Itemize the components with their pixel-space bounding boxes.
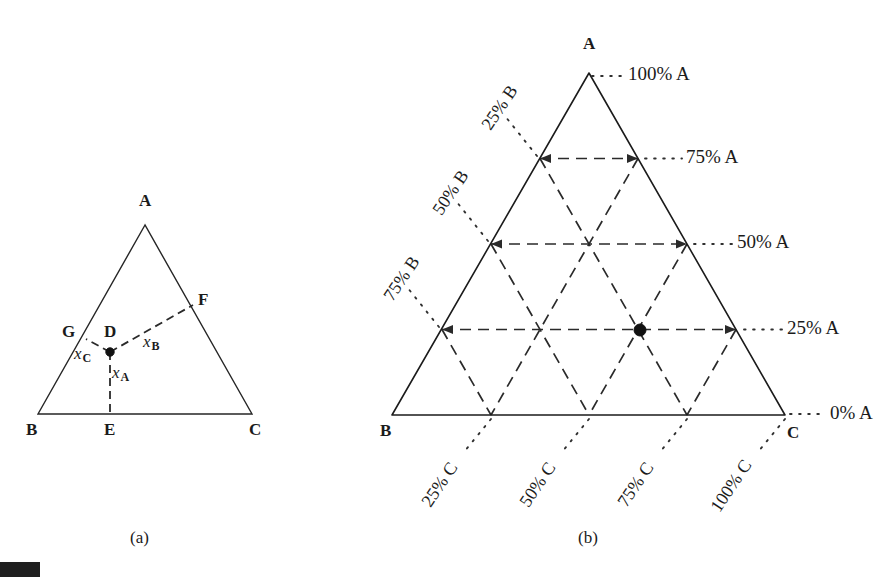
panel-a-vertex-label-c: C bbox=[249, 421, 261, 438]
panel-a-point-label-d: D bbox=[104, 323, 116, 340]
panel-b-label-a-100: 100% A bbox=[628, 64, 690, 83]
panel-b-gridline-b25 bbox=[540, 159, 687, 416]
panel-b-composition-point-marker bbox=[634, 324, 646, 336]
panel-a-xa-symbol: x bbox=[112, 363, 120, 382]
panel-a-caption: (a) bbox=[130, 528, 149, 548]
panel-a-xa-subscript: A bbox=[121, 370, 130, 384]
panel-a-vertex-label-b: B bbox=[26, 421, 37, 438]
panel-a-xc-subscript: C bbox=[83, 351, 92, 365]
panel-b-vertex-label-a: A bbox=[583, 35, 595, 52]
panel-b-gridline-c25 bbox=[491, 159, 638, 416]
leader-c100 bbox=[758, 419, 785, 452]
panel-a-geometry bbox=[38, 225, 252, 414]
panel-a-point-label-f: F bbox=[198, 291, 208, 308]
panel-a-point-d-marker bbox=[106, 348, 114, 356]
panel-a-point-label-e: E bbox=[104, 421, 115, 438]
panel-a-label-xa: xA bbox=[112, 364, 128, 381]
leader-b25 bbox=[505, 116, 537, 156]
panel-a-vertex-label-a: A bbox=[139, 192, 151, 209]
panel-a-label-xb: xB bbox=[143, 333, 159, 350]
panel-a-xc-symbol: x bbox=[74, 344, 82, 363]
leader-c25 bbox=[464, 419, 491, 452]
panel-b-label-a-25: 25% A bbox=[787, 318, 839, 337]
leader-b75 bbox=[407, 287, 439, 327]
panel-b-label-a-50: 50% A bbox=[737, 232, 789, 251]
panel-b-vertex-label-c: C bbox=[787, 424, 799, 441]
leader-c75 bbox=[660, 419, 687, 452]
leader-b50 bbox=[456, 201, 488, 241]
panel-b-label-a-0: 0% A bbox=[830, 403, 873, 422]
panel-b-vertex-label-b: B bbox=[380, 422, 391, 439]
panel-b-caption: (b) bbox=[578, 528, 598, 548]
panel-a-xb-subscript: B bbox=[152, 339, 160, 353]
panel-b-gridline-b75 bbox=[442, 330, 491, 416]
panel-b-gridline-c75 bbox=[687, 330, 736, 416]
leader-c50 bbox=[562, 419, 589, 452]
figure-root: A B C D E F G xA xB xC A B C 100% A 75% … bbox=[0, 0, 886, 577]
panel-b-geometry bbox=[392, 73, 826, 452]
panel-a-xb-symbol: x bbox=[143, 332, 151, 351]
panel-a-triangle-outline bbox=[38, 225, 252, 414]
panel-b-label-a-75: 75% A bbox=[686, 147, 738, 166]
panel-a-point-label-g: G bbox=[62, 323, 75, 340]
panel-a-label-xc: xC bbox=[74, 345, 90, 362]
scan-artifact-bar bbox=[0, 562, 40, 577]
